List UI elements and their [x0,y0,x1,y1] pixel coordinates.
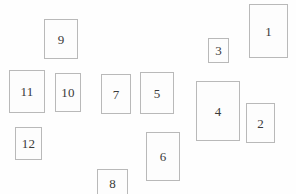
rectangle-8[interactable]: 8 [97,169,128,194]
rectangle-12[interactable]: 12 [15,127,42,160]
rectangle-7[interactable]: 7 [101,74,131,114]
rectangle-11[interactable]: 11 [9,70,45,113]
rectangle-6[interactable]: 6 [146,132,180,181]
rectangle-label: 10 [61,86,74,99]
rectangle-10[interactable]: 10 [55,73,81,112]
rectangle-label: 6 [160,150,167,163]
rectangle-label: 3 [215,44,222,57]
rectangle-5[interactable]: 5 [140,72,174,114]
rectangle-label: 4 [215,105,222,118]
rectangle-label: 12 [22,137,35,150]
rectangle-4[interactable]: 4 [196,81,240,141]
rectangle-2[interactable]: 2 [246,103,275,143]
rectangle-label: 5 [154,87,161,100]
rectangle-label: 11 [21,85,34,98]
rectangle-3[interactable]: 3 [208,38,229,63]
rectangle-9[interactable]: 9 [44,19,78,59]
rectangle-label: 2 [257,117,264,130]
rectangle-label: 9 [58,33,65,46]
rectangle-label: 8 [109,177,116,190]
rectangle-label: 7 [113,88,120,101]
rectangle-canvas: 123456789101112 [0,0,296,194]
rectangle-1[interactable]: 1 [249,4,288,58]
rectangle-label: 1 [265,25,272,38]
